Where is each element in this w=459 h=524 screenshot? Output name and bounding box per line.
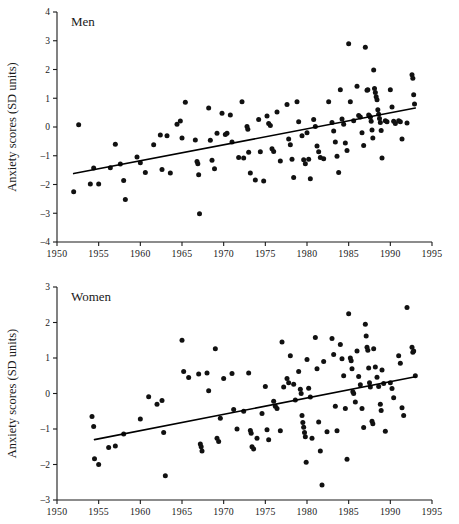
data-point [299,391,304,396]
data-point [400,405,405,410]
data-point [186,375,191,380]
data-point [343,406,348,411]
data-point [286,380,291,385]
data-point [318,449,323,454]
data-point [158,133,163,138]
data-point [241,156,246,161]
x-tick-label: 1965 [172,248,193,259]
x-tick-label: 1960 [130,248,151,259]
panel-women: –3–2–10123195019551960196519701975198019… [0,262,459,524]
data-point [275,110,280,115]
data-point [303,434,308,439]
data-point [301,425,306,430]
y-tick-label: –1 [40,151,51,161]
y-tick-label: 1 [45,94,50,104]
data-point [123,197,128,202]
y-axis-label: Anxiety scores (SD units) [5,62,19,192]
data-point [340,356,345,361]
y-tick-label: –1 [40,424,51,434]
data-point [361,425,366,430]
data-point [383,429,388,434]
data-point [90,414,95,419]
data-point [398,119,403,124]
data-point [218,416,223,421]
scatter-plot-women: –3–2–10123195019551960196519701975198019… [0,262,459,524]
data-point [363,45,368,50]
data-point [370,421,375,426]
data-point [373,364,378,369]
data-point [228,112,233,117]
data-point [306,386,311,391]
data-point [300,133,305,138]
data-point [113,142,118,147]
data-point [310,436,315,441]
data-point [216,439,221,444]
data-point [412,102,417,107]
x-tick-label: 1975 [255,248,276,259]
data-point [333,139,338,144]
data-point [400,137,405,142]
data-point [367,380,372,385]
data-point [360,130,365,135]
data-point [343,141,348,146]
data-point [338,87,343,92]
data-point [155,402,160,407]
data-point [231,407,236,412]
panel-title: Women [71,289,112,304]
data-point [370,127,375,132]
data-point [180,135,185,140]
data-point [196,371,201,376]
data-point [255,436,260,441]
data-point [378,120,383,125]
x-tick-label: 1950 [47,506,68,517]
data-point [96,181,101,186]
data-point [245,127,250,132]
data-point [340,116,345,121]
y-tick-label: –4 [40,237,51,247]
y-tick-label: –2 [40,460,51,470]
data-point [253,177,258,182]
data-point [373,90,378,95]
x-tick-label: 1990 [380,248,401,259]
x-tick-label: 1980 [297,248,318,259]
data-point [313,335,318,340]
y-axis-label: Anxiety scores (SD units) [5,329,19,459]
data-point [263,384,268,389]
data-point [249,431,254,436]
y-tick-label: 0 [45,122,50,132]
data-point [281,385,286,390]
data-point [146,394,151,399]
data-point [91,424,96,429]
data-point [306,157,311,162]
data-point [181,369,186,374]
y-tick-label: –3 [40,209,51,219]
data-point [355,84,360,89]
data-point [353,400,358,405]
data-point [364,333,369,338]
x-tick-label: 1985 [338,506,359,517]
data-point [360,406,365,411]
data-point [213,346,218,351]
data-point [348,99,353,104]
data-point [160,398,165,403]
data-point [106,445,111,450]
data-point [385,119,390,124]
data-point [350,366,355,371]
data-point [280,340,285,345]
x-tick-label: 1970 [213,506,234,517]
x-tick-label: 1990 [380,506,401,517]
data-point [331,352,336,357]
data-point [365,348,370,353]
data-point [178,118,183,123]
data-point [296,119,301,124]
data-point [335,154,340,159]
data-point [333,404,338,409]
data-point [311,117,316,122]
data-point [369,119,374,124]
data-point [379,408,384,413]
x-tick-label: 1965 [172,506,193,517]
data-point [378,402,383,407]
data-point [375,375,380,380]
data-point [285,376,290,381]
x-tick-label: 1995 [422,248,443,259]
